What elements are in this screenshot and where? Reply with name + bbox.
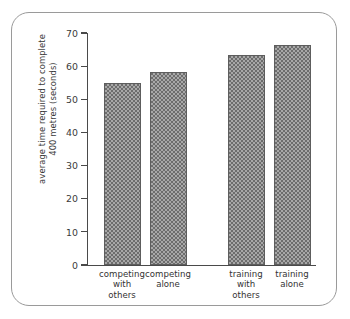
y-tick-label-60: 60 (52, 61, 78, 72)
y-tick-label-0: 0 (52, 260, 78, 271)
y-tick-label-70: 70 (52, 28, 78, 39)
y-tick-label-10: 10 (52, 227, 78, 238)
y-tick-label-50: 50 (52, 94, 78, 105)
x-axis-line (87, 265, 316, 266)
x-label-line: others (91, 290, 153, 300)
x-label-line: competing (137, 269, 199, 279)
y-tick-label-30: 30 (52, 160, 78, 171)
bar-training-with-others[interactable] (228, 55, 265, 265)
x-label-competing-alone: competing alone (137, 269, 199, 290)
bar-competing-alone[interactable] (150, 72, 187, 265)
y-tick-label-20: 20 (52, 193, 78, 204)
bar-competing-with-others[interactable] (104, 83, 141, 265)
y-axis-line (87, 33, 88, 266)
y-tick-label-40: 40 (52, 127, 78, 138)
y-tick-0 (81, 264, 87, 265)
bar-training-alone[interactable] (274, 45, 311, 265)
y-tick-20 (81, 198, 87, 199)
y-axis-label: average time required to complete 400 me… (37, 9, 59, 209)
x-label-line: alone (137, 279, 199, 289)
x-label-line: training (261, 269, 323, 279)
x-label-line: others (215, 290, 277, 300)
y-tick-40 (81, 132, 87, 133)
y-axis-label-line-1: average time required to complete (37, 34, 47, 184)
bar-chart: average time required to complete 400 me… (0, 0, 350, 319)
y-tick-10 (81, 231, 87, 232)
y-tick-30 (81, 165, 87, 166)
y-tick-60 (81, 66, 87, 67)
x-label-line: alone (261, 279, 323, 289)
x-label-training-alone: training alone (261, 269, 323, 290)
y-tick-70 (81, 32, 87, 33)
y-axis-label-line-2: 400 metres (seconds) (48, 9, 59, 209)
y-tick-50 (81, 99, 87, 100)
